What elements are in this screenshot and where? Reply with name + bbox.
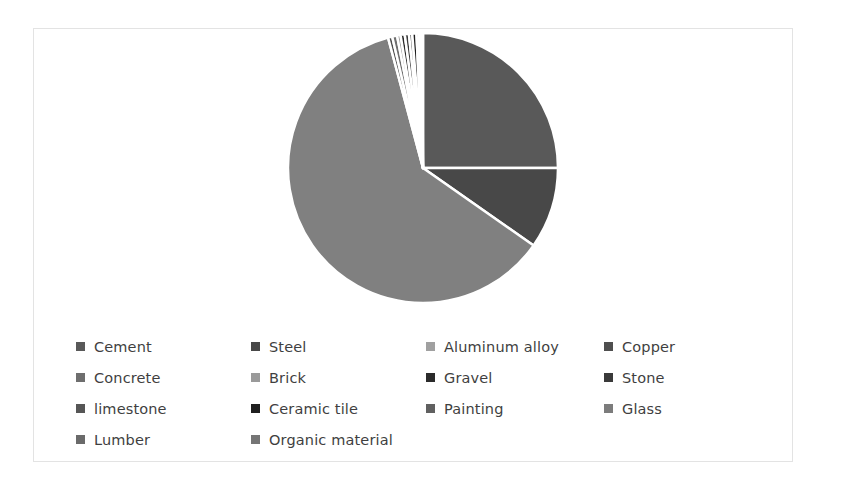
legend-item[interactable]: Organic material [251,424,426,455]
legend-item-label: Ceramic tile [269,401,358,417]
legend-swatch-icon [426,404,435,413]
legend-swatch-icon [76,404,85,413]
legend-item[interactable]: limestone [76,393,251,424]
pie-slice[interactable] [423,33,558,168]
pie-slice[interactable] [422,33,423,168]
pie-chart-plot-area [34,29,792,309]
chart-frame: CementSteelAluminum alloyCopperConcreteB… [33,28,793,462]
legend-item[interactable]: Gravel [426,362,604,393]
legend-swatch-icon [76,373,85,382]
pie-slice-group [288,33,558,303]
legend-item[interactable]: Stone [604,362,754,393]
legend-item-label: Copper [622,339,675,355]
legend-swatch-icon [251,435,260,444]
legend-item-label: Organic material [269,432,393,448]
legend-item-label: Stone [622,370,665,386]
legend-item-label: limestone [94,401,167,417]
legend-item-label: Steel [269,339,307,355]
legend-swatch-icon [251,342,260,351]
legend-swatch-icon [251,373,260,382]
legend-swatch-icon [251,404,260,413]
pie-chart-svg [34,29,792,309]
legend-item[interactable]: Cement [76,331,251,362]
legend-item-label: Brick [269,370,306,386]
legend-item[interactable]: Ceramic tile [251,393,426,424]
legend-swatch-icon [76,435,85,444]
legend-swatch-icon [604,373,613,382]
legend-item[interactable]: Glass [604,393,754,424]
legend-item-label: Lumber [94,432,150,448]
chart-legend: CementSteelAluminum alloyCopperConcreteB… [76,331,756,455]
legend-item-label: Concrete [94,370,161,386]
legend-swatch-icon [426,342,435,351]
legend-item[interactable]: Steel [251,331,426,362]
legend-swatch-icon [604,342,613,351]
legend-item[interactable]: Painting [426,393,604,424]
legend-item-label: Aluminum alloy [444,339,559,355]
legend-item[interactable]: Brick [251,362,426,393]
legend-item[interactable]: Aluminum alloy [426,331,604,362]
legend-item-label: Glass [622,401,662,417]
legend-item-label: Painting [444,401,504,417]
legend-item[interactable]: Concrete [76,362,251,393]
legend-item-label: Cement [94,339,152,355]
legend-swatch-icon [76,342,85,351]
legend-item-label: Gravel [444,370,493,386]
legend-swatch-icon [604,404,613,413]
legend-swatch-icon [426,373,435,382]
legend-item[interactable]: Copper [604,331,754,362]
legend-item[interactable]: Lumber [76,424,251,455]
